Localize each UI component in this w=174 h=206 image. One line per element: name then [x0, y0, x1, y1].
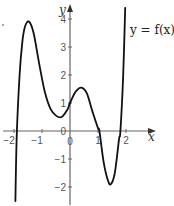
y-axis-label: y	[58, 3, 66, 17]
origin-label-x: 0	[67, 136, 73, 147]
y-tick-label: 2	[60, 70, 66, 81]
y-axis-arrow-icon	[67, 4, 73, 12]
x-axis-label: x	[148, 130, 155, 144]
y-tick-label: 3	[60, 42, 66, 53]
x-tick-label: −2	[3, 135, 15, 146]
y-tick-label: −2	[55, 182, 67, 193]
x-tick-label: 2	[123, 135, 129, 146]
y-tick-label: −1	[55, 154, 67, 165]
function-graph: −2−112−2−1123400 x y y = f(x)	[0, 0, 174, 206]
origin-label-y: 0	[60, 126, 66, 137]
y-tick-label: 1	[60, 98, 66, 109]
curve-label: y = f(x)	[129, 23, 174, 37]
stray-dot	[2, 24, 4, 26]
x-tick-label: −1	[31, 135, 43, 146]
